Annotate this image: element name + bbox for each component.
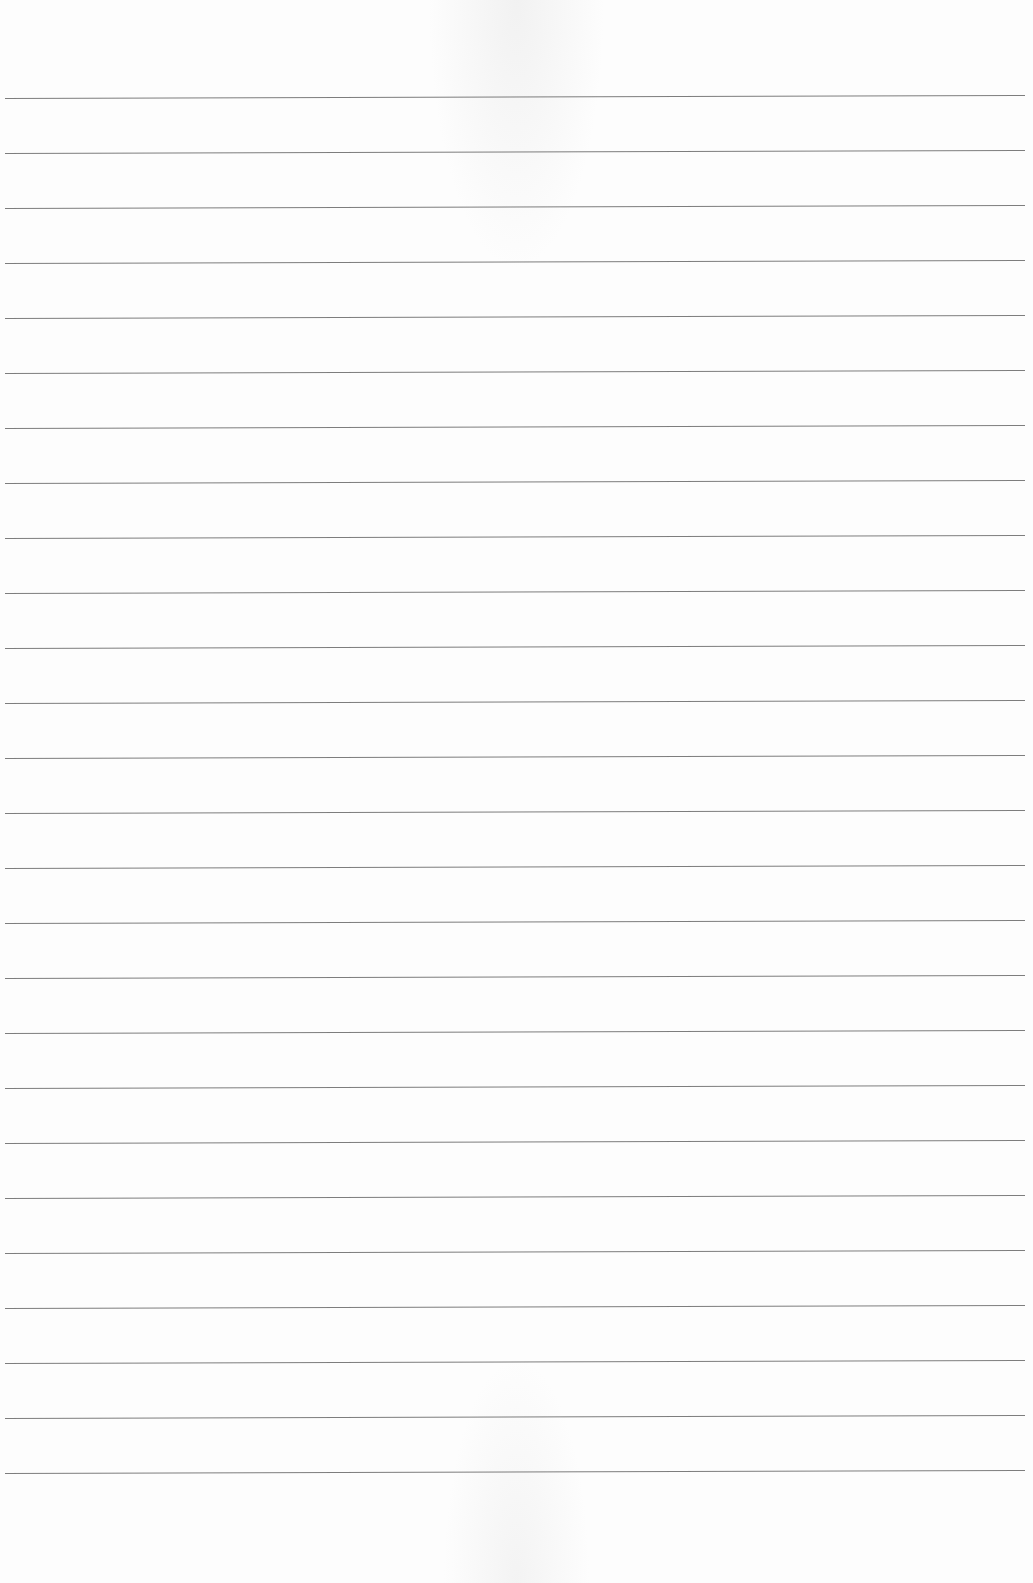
ruled-line — [5, 810, 1025, 814]
ruled-line — [5, 95, 1025, 99]
ruled-line — [5, 865, 1025, 869]
ruled-line — [5, 755, 1025, 759]
ruled-line — [5, 260, 1025, 264]
ruled-line — [5, 370, 1025, 374]
ruled-line — [5, 975, 1025, 979]
ruled-line — [5, 150, 1025, 154]
ruled-line — [5, 1030, 1025, 1034]
ruled-line — [5, 1085, 1025, 1089]
lined-paper-sheet — [0, 0, 1033, 1583]
ruled-line — [5, 1305, 1025, 1309]
ruled-line — [5, 1250, 1025, 1254]
ruled-line — [5, 645, 1025, 649]
ruled-line — [5, 315, 1025, 319]
ruled-line — [5, 700, 1025, 704]
ruled-line — [5, 920, 1025, 924]
ruled-line — [5, 480, 1025, 484]
ruled-line — [5, 1195, 1025, 1199]
ruled-line — [5, 590, 1025, 594]
ruled-line — [5, 535, 1025, 539]
ruled-line — [5, 1470, 1025, 1474]
ruled-line — [5, 1140, 1025, 1144]
ruled-line — [5, 1415, 1025, 1419]
ruled-line — [5, 205, 1025, 209]
ruled-line — [5, 425, 1025, 429]
ruled-line — [5, 1360, 1025, 1364]
